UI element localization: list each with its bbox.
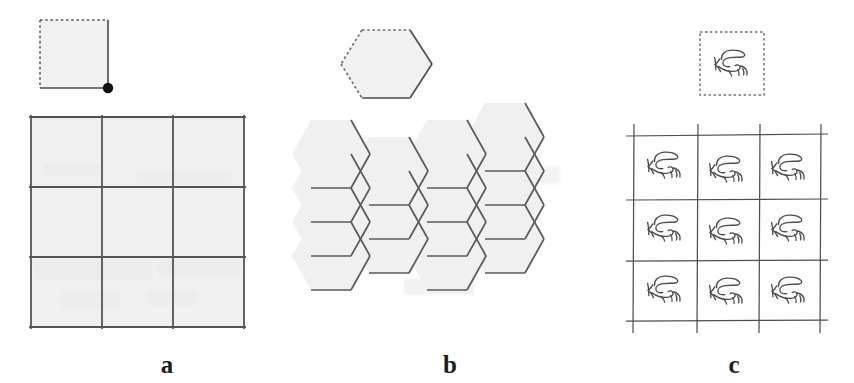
- square-prototile: [34, 14, 120, 100]
- panel-c-label: c: [590, 352, 854, 377]
- grid-line-h: [626, 320, 828, 321]
- panel-a: a: [0, 0, 290, 383]
- corner-dot-icon: [103, 83, 113, 93]
- motif-cell: [710, 218, 743, 244]
- grid-line-h: [626, 199, 828, 200]
- motif-cell: [710, 156, 743, 182]
- grid-line-h: [626, 260, 828, 261]
- square-prototile-fill: [40, 20, 108, 88]
- panel-c-canvas: [590, 0, 854, 345]
- grid-line-v: [633, 124, 634, 333]
- panel-c: c: [590, 0, 854, 383]
- hex-column-4: [466, 103, 544, 273]
- panel-a-label: a: [0, 352, 312, 377]
- grid-line-v: [820, 124, 821, 333]
- tile-cell: [102, 187, 173, 257]
- hexagonal-honeycomb-tiling: [284, 90, 594, 330]
- panel-b-label: b: [290, 352, 600, 377]
- motif-cell: [772, 277, 805, 303]
- motif-cell: [648, 152, 681, 178]
- motif-grid-tiling: [626, 124, 828, 333]
- square-grid-tiling: [26, 112, 256, 332]
- motif-cell: [648, 276, 681, 302]
- grid-line-v: [759, 124, 760, 333]
- motif-cell: [710, 278, 743, 304]
- tile-cell: [31, 187, 102, 257]
- grid-line-v: [697, 124, 698, 333]
- grid-line-h: [626, 134, 828, 136]
- tile-cell: [31, 117, 102, 187]
- motif-cell: [772, 154, 805, 180]
- motif-prototile: [700, 32, 764, 95]
- panel-b: b: [290, 0, 590, 383]
- motif-cell: [648, 215, 681, 241]
- motif-cell: [772, 215, 805, 241]
- hexagon-prototile-fill: [341, 30, 432, 98]
- motif-prototile-border: [700, 32, 764, 95]
- tile-cell: [173, 187, 244, 257]
- tiling-figure: a: [0, 0, 854, 383]
